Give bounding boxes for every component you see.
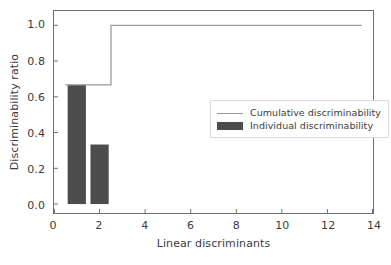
legend-patch-swatch (217, 122, 243, 130)
y-tick-label: 0.8 (6, 54, 45, 67)
y-tick-label: 0.4 (6, 126, 45, 139)
x-tick-label: 4 (141, 219, 148, 232)
y-tick-label: 0.0 (6, 198, 45, 211)
x-tick-label: 12 (321, 219, 335, 232)
figure: Discriminability ratio 0.00.20.40.60.81.… (0, 0, 391, 265)
x-axis-label: Linear discriminants (53, 237, 374, 250)
x-tick-label: 0 (49, 219, 56, 232)
x-tick-label: 8 (233, 219, 240, 232)
legend-label: Cumulative discriminability (250, 106, 381, 119)
x-tick-label: 14 (367, 219, 381, 232)
legend-label: Individual discriminability (250, 119, 373, 132)
x-tick-label: 6 (187, 219, 194, 232)
legend-line-swatch (217, 106, 243, 119)
y-tick-label: 1.0 (6, 18, 45, 31)
x-tick-label: 10 (275, 219, 289, 232)
bar (90, 145, 108, 205)
y-tick-label-group: 0.00.20.40.60.81.0 (0, 10, 45, 214)
cumulative-step-line (65, 25, 361, 85)
y-tick-label: 0.6 (6, 90, 45, 103)
y-tick-label: 0.2 (6, 162, 45, 175)
legend-item: Individual discriminability (217, 119, 381, 132)
x-tick-label-group: 02468101214 (53, 219, 374, 235)
legend-item: Cumulative discriminability (217, 106, 381, 119)
bar (68, 85, 86, 204)
x-tick-label: 2 (95, 219, 102, 232)
chart-legend: Cumulative discriminabilityIndividual di… (210, 100, 389, 138)
